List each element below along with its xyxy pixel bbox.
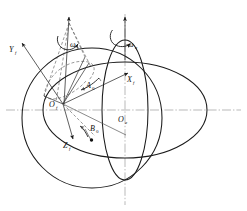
Yf-axis-arrow [22, 43, 63, 104]
coordinate-frame-figure: ω s ω e Y f X f Z f O f [0, 0, 247, 211]
omega-e-symbol: ω [128, 40, 134, 49]
Of-subscript: f [56, 105, 58, 110]
omega-s-symbol: ω [70, 40, 76, 49]
label-Zf: Z f [63, 141, 71, 151]
Of-symbol: O [49, 100, 55, 109]
label-Oe: O e [118, 115, 128, 125]
Zf-subscript: f [69, 146, 71, 151]
label-Xf: X f [126, 75, 135, 85]
cone-generator-2 [56, 23, 69, 102]
omega-e-subscript: e [135, 45, 138, 50]
Yf-subscript: f [15, 50, 17, 55]
Oe-subscript: e [125, 120, 128, 125]
label-Yf: Y f [9, 45, 17, 55]
A0-symbol: A [85, 81, 91, 90]
label-omega-e: ω e [128, 40, 138, 50]
Oe-symbol: O [118, 115, 124, 124]
B0-subscript: 0 [96, 129, 99, 134]
figure-labels: ω s ω e Y f X f Z f O f [9, 40, 138, 151]
Xf-symbol: X [126, 75, 133, 84]
diagram-canvas: ω s ω e Y f X f Z f O f [0, 0, 247, 211]
omega-s-subscript: s [77, 45, 79, 50]
globe-outlines [22, 40, 207, 188]
B0-point [90, 138, 93, 141]
Zf-symbol: Z [63, 141, 68, 150]
label-B0: B 0 [90, 124, 99, 134]
B0-symbol: B [90, 124, 95, 133]
B0-angle-arc [80, 126, 88, 137]
body-frame-axes [22, 43, 128, 139]
A0-subscript: 0 [92, 86, 95, 91]
A0-tick [99, 78, 101, 81]
guide-axes [6, 14, 241, 205]
Xf-subscript: f [133, 80, 135, 85]
